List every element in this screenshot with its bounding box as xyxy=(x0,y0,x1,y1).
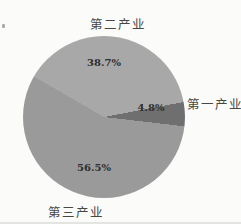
category-label-tertiary-industry: 第三产业 xyxy=(48,202,104,221)
percent-label-tertiary-industry: 56.5% xyxy=(77,162,111,173)
scan-bottom-edge xyxy=(0,222,241,224)
percent-label-secondary-industry: 38.7% xyxy=(87,57,121,68)
category-label-primary-industry: 第一产业 xyxy=(187,94,241,113)
pie-chart-figure: 第二产业 第一产业 第三产业 38.7% 4.8% 56.5% xyxy=(0,0,241,224)
percent-label-primary-industry: 4.8% xyxy=(138,102,165,113)
category-label-secondary-industry: 第二产业 xyxy=(90,14,146,33)
scan-artifact xyxy=(2,24,5,28)
